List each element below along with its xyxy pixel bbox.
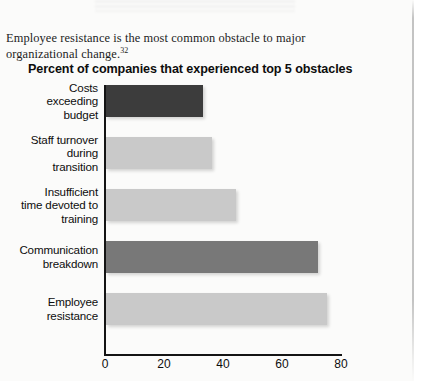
bar-category-label: Employeeresistance xyxy=(0,295,98,322)
bar xyxy=(106,293,327,325)
body-paragraph: Employee resistance is the most common o… xyxy=(6,30,378,62)
x-axis-tick-label: 20 xyxy=(149,357,179,371)
bar-category-label-line: Costs xyxy=(0,81,98,95)
bar xyxy=(106,85,203,117)
bar-category-label-line: during xyxy=(0,146,98,160)
bar-category-label-line: transition xyxy=(0,160,98,174)
chart-title: Percent of companies that experienced to… xyxy=(28,62,373,76)
bar-category-label: Costsexceedingbudget xyxy=(0,81,98,122)
bar-category-label-line: Staff turnover xyxy=(0,133,98,147)
x-axis-line xyxy=(104,354,342,356)
bar xyxy=(106,189,236,221)
bar-category-label: Staff turnoverduringtransition xyxy=(0,133,98,174)
x-axis-tick-label: 0 xyxy=(90,357,120,371)
bar-category-label-line: training xyxy=(0,212,98,226)
bar-category-label-line: Insufficient xyxy=(0,185,98,199)
bar-chart-plot-area: CostsexceedingbudgetStaff turnoverduring… xyxy=(0,84,425,359)
y-axis-line xyxy=(104,85,106,355)
bar-category-label-line: budget xyxy=(0,108,98,122)
bar-category-label: Communicationbreakdown xyxy=(0,243,98,270)
x-axis-tick-label: 60 xyxy=(267,357,297,371)
bar-category-label-line: exceeding xyxy=(0,94,98,108)
scanned-page: Employee resistance is the most common o… xyxy=(0,0,425,381)
bar-category-label-line: breakdown xyxy=(0,257,98,271)
x-axis-tick-label: 40 xyxy=(208,357,238,371)
footnote-marker: 32 xyxy=(120,46,128,55)
bar-chart-category-row: Employeeresistance xyxy=(0,293,425,345)
bar-category-label-line: Communication xyxy=(0,243,98,257)
bar-category-label-line: Employee xyxy=(0,295,98,309)
page-top-bleed-artifact xyxy=(95,0,295,12)
body-paragraph-text: Employee resistance is the most common o… xyxy=(6,31,305,61)
bar-category-label: Insufficienttime devoted totraining xyxy=(0,185,98,226)
bar-category-label-line: resistance xyxy=(0,309,98,323)
bar xyxy=(106,137,212,169)
x-axis-tick-label: 80 xyxy=(326,357,356,371)
bar-chart-category-row: Insufficienttime devoted totraining xyxy=(0,189,425,241)
bar-chart-category-row: Communicationbreakdown xyxy=(0,241,425,293)
bar-chart-category-row: Staff turnoverduringtransition xyxy=(0,137,425,189)
bar-chart-category-row: Costsexceedingbudget xyxy=(0,85,425,137)
bar xyxy=(106,241,318,273)
bar-category-label-line: time devoted to xyxy=(0,198,98,212)
